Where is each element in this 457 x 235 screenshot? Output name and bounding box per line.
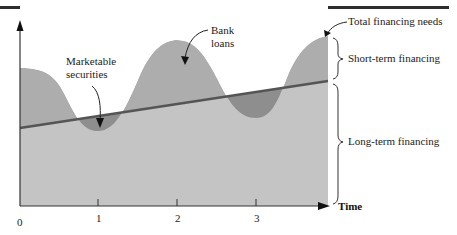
total-needs-pointer	[327, 22, 347, 34]
total-financing-needs-label: Total financing needs	[348, 15, 443, 28]
x-tick-1: 1	[96, 212, 102, 224]
marketable-securities-label-line2: securities	[66, 68, 108, 81]
long-term-brace	[333, 84, 343, 204]
x-tick-3: 3	[254, 212, 260, 224]
short-term-financing-label: Short-term financing	[348, 52, 440, 65]
long-term-financing-label: Long-term financing	[348, 135, 439, 148]
bank-loans-label-line1: Bank	[211, 24, 234, 37]
short-term-brace	[333, 38, 343, 79]
x-tick-2: 2	[175, 212, 181, 224]
x-tick-0: 0	[17, 216, 23, 228]
x-axis-label: Time	[338, 200, 362, 212]
bank-loans-label-line2: loans	[211, 37, 234, 50]
marketable-securities-label-line1: Marketable	[66, 55, 116, 68]
